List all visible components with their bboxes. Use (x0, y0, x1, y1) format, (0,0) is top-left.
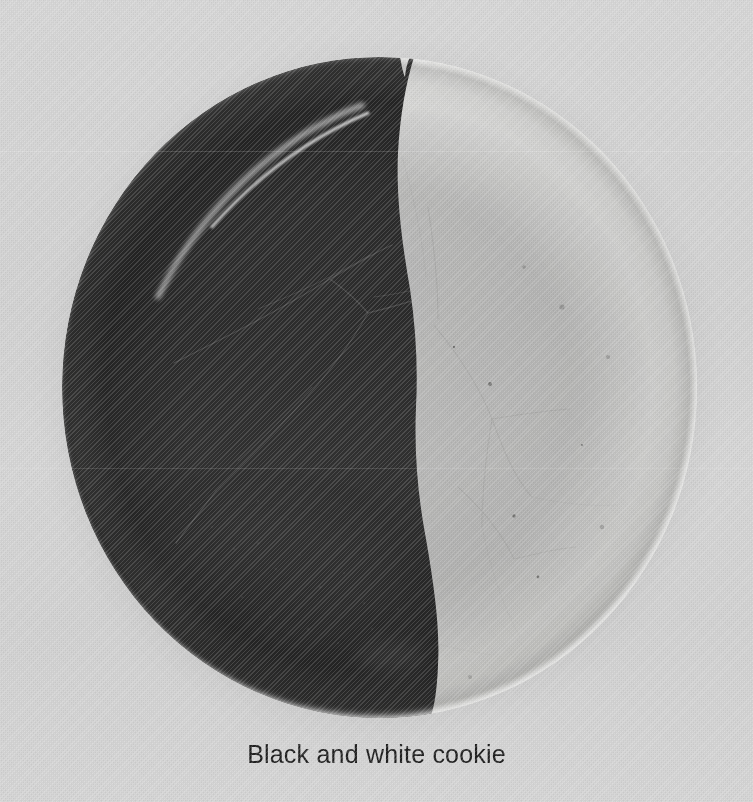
scanned-page: Black and white cookie (0, 0, 753, 802)
cookie-drop-shadow (40, 40, 720, 744)
photo-caption: Black and white cookie (0, 740, 753, 769)
